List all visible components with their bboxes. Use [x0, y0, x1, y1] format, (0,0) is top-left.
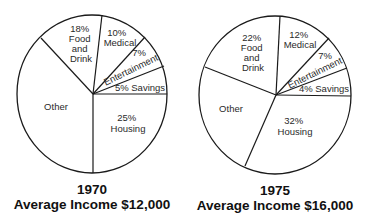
- slice-label-other: Other: [219, 103, 243, 114]
- slice-label-other: Other: [44, 101, 68, 112]
- pie-1975-subtitle: Average Income $16,000: [197, 198, 353, 213]
- pie-1970-subtitle: Average Income $12,000: [14, 197, 170, 212]
- slice-label-housing: 32% Housing: [278, 115, 313, 137]
- slice-label-food: 18% Food and Drink: [69, 23, 93, 64]
- divider-savings-housing: [276, 95, 351, 96]
- pie-1975-title: 1975: [260, 183, 291, 198]
- divider-food-medical: [93, 15, 102, 94]
- divider-housing-other: [245, 95, 276, 166]
- slice-label-medical: 12% Medical: [284, 29, 317, 50]
- divider-other-food: [205, 67, 276, 95]
- pie-charts: 18% Food and Drink 10% Medical 7% Entert…: [0, 0, 371, 215]
- slice-label-savings: 5% Savings: [115, 82, 165, 93]
- slice-label-food: 22% Food and Drink: [241, 32, 265, 73]
- pie-1970-title: 1970: [77, 182, 107, 197]
- slice-label-housing: 25% Housing: [111, 112, 146, 134]
- slice-label-medical: 10% Medical: [104, 27, 137, 48]
- divider-food-medical: [276, 16, 280, 95]
- pie-1975: 22% Food and Drink 12% Medical 7% Entert…: [197, 16, 353, 213]
- pie-1970: 18% Food and Drink 10% Medical 7% Entert…: [14, 15, 170, 212]
- slice-label-savings: 4% Savings: [299, 83, 349, 94]
